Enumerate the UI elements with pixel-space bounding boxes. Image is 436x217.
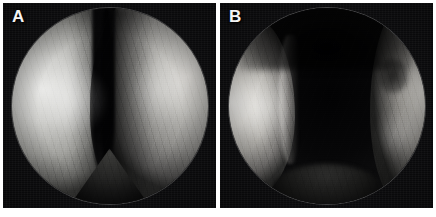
panel-b-image-field <box>229 8 425 204</box>
panel-a[interactable]: A <box>3 3 216 208</box>
panel-b-label: B <box>229 8 242 25</box>
panel-a-endoscope-aperture <box>12 8 208 204</box>
panel-a-label: A <box>12 8 25 25</box>
panel-b-left-highlight <box>232 74 291 141</box>
panel-b-endoscope-aperture <box>229 8 425 204</box>
figure-container: A B <box>0 0 436 217</box>
panel-b[interactable]: B <box>220 3 433 208</box>
panel-a-image-field <box>12 8 208 204</box>
panel-a-left-highlight <box>39 66 106 133</box>
panel-a-right-highlight <box>133 51 184 129</box>
panel-b-superior-shadow <box>240 8 412 71</box>
panel-b-right-highlight <box>377 109 420 160</box>
